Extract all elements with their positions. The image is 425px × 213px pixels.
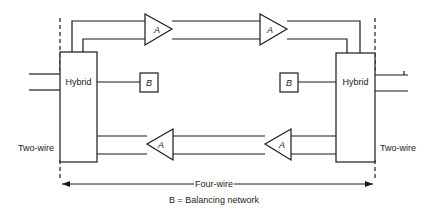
svg-text:A: A [278, 140, 285, 150]
svg-text:A: A [157, 140, 164, 150]
four-wire-label: Four-wire [195, 179, 233, 189]
svg-text:A: A [266, 25, 273, 35]
amplifier-bottom-right: A [265, 129, 291, 160]
svg-text:B: B [286, 78, 292, 88]
two-wire-right-label: Two-wire [380, 143, 416, 153]
balancing-network-right: B [280, 73, 298, 92]
hybrid-right: Hybrid [336, 53, 375, 162]
balancing-network-left: B [140, 73, 158, 92]
amplifier-top-right: A [260, 14, 287, 45]
two-wire-left-label: Two-wire [18, 143, 54, 153]
legend: B = Balancing network [169, 195, 259, 205]
four-wire-circuit-diagram: Hybrid Hybrid B B A A A A Two-wire Two-w… [0, 0, 425, 213]
hybrid-left-label: Hybrid [65, 77, 91, 87]
amplifier-top-left: A [145, 14, 172, 45]
svg-text:A: A [153, 25, 160, 35]
svg-text:B: B [146, 78, 152, 88]
hybrid-left: Hybrid [60, 52, 97, 162]
hybrid-right-label: Hybrid [342, 77, 368, 87]
amplifier-bottom-left: A [147, 129, 173, 160]
